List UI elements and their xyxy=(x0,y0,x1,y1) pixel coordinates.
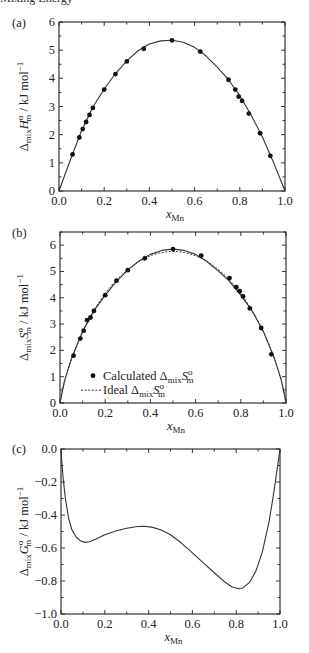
x-tick-label: 1.0 xyxy=(277,194,293,208)
panel-label: (c) xyxy=(12,442,26,456)
x-tick-label: 0.8 xyxy=(232,194,248,208)
y-tick-label: 1 xyxy=(50,370,56,384)
y-axis-label: ΔmixHom / kJ mol−1 xyxy=(15,62,33,152)
x-tick-label: 0.2 xyxy=(96,194,112,208)
y-tick-label: −0.6 xyxy=(34,541,57,555)
data-point xyxy=(227,276,232,281)
legend-label: Calculated ΔmixSom xyxy=(103,367,193,385)
y-tick-label: 0 xyxy=(50,396,56,410)
data-point xyxy=(141,46,146,51)
y-tick-label: 4 xyxy=(49,71,56,85)
data-point xyxy=(259,326,264,331)
legend-dot-icon xyxy=(91,373,96,378)
data-point xyxy=(247,306,252,311)
x-tick-label: 0.6 xyxy=(187,194,203,208)
y-tick-label: 0 xyxy=(49,184,55,198)
legend: Calculated ΔmixSomIdeal ΔmixSom xyxy=(81,367,193,399)
y-tick-label: 0.0 xyxy=(41,442,57,456)
data-point xyxy=(142,256,147,261)
x-tick-label: 0.6 xyxy=(188,406,204,420)
y-tick-label: 2 xyxy=(50,343,56,357)
x-tick-label: 1.0 xyxy=(272,617,288,631)
x-axis-label: xMn xyxy=(165,207,185,223)
fit-curve xyxy=(61,449,280,589)
x-tick-label: 0.2 xyxy=(97,617,113,631)
panel-label: (b) xyxy=(12,226,27,240)
y-tick-label: 5 xyxy=(49,43,55,57)
x-tick-label: 0.8 xyxy=(233,406,249,420)
panel-a-enthalpy-chart: 0.00.20.40.60.81.00123456(a)xMnΔmixHom /… xyxy=(12,15,293,223)
data-point xyxy=(170,38,175,43)
x-tick-label: 0.8 xyxy=(228,617,244,631)
y-axis-label: ΔmixGom / kJ mol−1 xyxy=(15,487,33,577)
data-point xyxy=(91,106,96,111)
legend-label: Ideal ΔmixSom xyxy=(103,381,165,399)
y-axis-label: ΔmixSom / kJ mol−1 xyxy=(15,274,33,361)
data-point xyxy=(236,94,241,99)
panel-label: (a) xyxy=(12,16,26,30)
x-tick-label: 1.0 xyxy=(278,406,294,420)
y-tick-label: 6 xyxy=(49,15,55,29)
x-tick-label: 0.4 xyxy=(141,617,157,631)
x-tick-label: 0.2 xyxy=(97,406,113,420)
data-point xyxy=(77,135,82,140)
data-point xyxy=(246,111,251,116)
data-point xyxy=(237,289,242,294)
data-point xyxy=(81,328,86,333)
data-point xyxy=(114,278,119,283)
data-point xyxy=(125,268,130,273)
data-point xyxy=(113,72,118,77)
y-tick-label: 5 xyxy=(50,264,56,278)
y-tick-label: 3 xyxy=(50,317,56,331)
data-point xyxy=(241,294,246,299)
data-point xyxy=(124,59,129,64)
data-point xyxy=(258,131,263,136)
plot-frame xyxy=(61,449,280,614)
data-point xyxy=(84,120,89,125)
y-tick-label: −0.8 xyxy=(34,574,57,588)
data-point xyxy=(103,293,108,298)
data-point xyxy=(226,77,231,82)
data-point xyxy=(198,49,203,54)
x-axis-label: xMn xyxy=(166,419,186,435)
data-point xyxy=(71,353,76,358)
data-point xyxy=(102,87,107,92)
data-point xyxy=(70,152,75,157)
data-point xyxy=(92,309,97,314)
data-point xyxy=(233,87,238,92)
data-point xyxy=(88,315,93,320)
y-tick-label: −0.4 xyxy=(34,508,57,522)
x-tick-label: 0.6 xyxy=(185,617,201,631)
x-tick-label: 0.4 xyxy=(142,194,158,208)
y-tick-label: −0.2 xyxy=(34,475,57,489)
data-point xyxy=(269,352,274,357)
data-point xyxy=(234,285,239,290)
data-point xyxy=(268,153,273,158)
figure: 0.00.20.40.60.81.00123456(a)xMnΔmixHom /… xyxy=(0,0,309,653)
x-tick-label: 0.4 xyxy=(143,406,159,420)
data-point xyxy=(87,113,92,118)
data-point xyxy=(78,336,83,341)
panel-c-gibbs-chart: 0.00.20.40.60.81.00.0−0.2−0.4−0.6−0.8−1.… xyxy=(12,442,288,646)
panel-b-entropy-chart: 0.00.20.40.60.81.00123456(b)xMnΔmixSom /… xyxy=(12,226,294,435)
y-tick-label: 6 xyxy=(50,238,56,252)
y-tick-label: 1 xyxy=(49,156,55,170)
y-tick-label: −1.0 xyxy=(34,607,57,621)
fit-curve xyxy=(59,40,285,191)
data-point xyxy=(199,253,204,258)
y-tick-label: 2 xyxy=(49,128,55,142)
x-axis-label: xMn xyxy=(164,630,184,646)
y-tick-label: 4 xyxy=(50,291,57,305)
data-point xyxy=(240,98,245,103)
data-point xyxy=(171,247,176,252)
data-point xyxy=(80,127,85,132)
y-tick-label: 3 xyxy=(49,100,55,114)
